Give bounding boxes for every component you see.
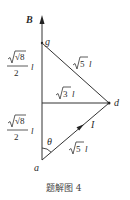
svg-text:l: l [89, 59, 92, 69]
b-field-label: B [25, 14, 33, 25]
upper-left-length-label: √8 2 l [7, 51, 34, 78]
current-label: I [90, 119, 95, 130]
b-field-arrow-icon [40, 15, 45, 24]
angle-arc [42, 148, 51, 152]
svg-text:√8: √8 [15, 116, 25, 126]
point-d-label: d [114, 97, 120, 108]
figure-caption: 题解图 4 [46, 182, 82, 193]
segment-gd [42, 43, 109, 103]
point-g-label: g [45, 36, 50, 47]
svg-text:2: 2 [14, 68, 19, 78]
horizontal-length-label: 3 l [56, 87, 75, 99]
svg-text:l: l [31, 62, 34, 72]
svg-text:l: l [31, 126, 34, 136]
svg-text:l: l [72, 89, 75, 99]
svg-text:2: 2 [14, 132, 19, 142]
angle-theta-label: θ [47, 136, 52, 147]
svg-text:3: 3 [63, 89, 68, 99]
svg-text:√8: √8 [15, 52, 25, 62]
point-a-label: a [34, 162, 39, 173]
svg-text:l: l [85, 144, 88, 154]
lower-left-length-label: √8 2 l [7, 115, 34, 142]
svg-text:5: 5 [76, 144, 81, 154]
ad-length-label: 5 l [69, 142, 88, 154]
diagram-canvas: B g d I θ a √8 2 l √8 2 l 5 l 3 l [0, 0, 130, 200]
svg-text:5: 5 [80, 59, 85, 69]
gd-length-label: 5 l [73, 57, 92, 69]
